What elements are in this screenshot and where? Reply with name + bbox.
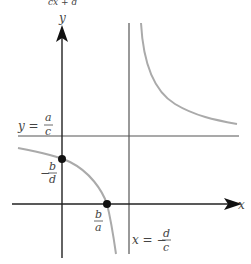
y-intercept-den: d [49, 173, 56, 186]
v-asymptote-num: d [163, 227, 170, 240]
upper-right-branch [141, 23, 237, 124]
title-fragment: cx + d [48, 0, 77, 7]
lower-left-branch [18, 148, 116, 254]
y-axis-label: y [58, 11, 66, 25]
h-asymptote-lhs: y = [17, 119, 39, 133]
x-axis-label: x [238, 198, 245, 212]
hyperbola-diagram: cx + d y x y = a c x = − d c − b d b a [0, 0, 251, 264]
x-intercept-den: a [95, 221, 102, 234]
x-intercept-num: b [95, 208, 102, 221]
h-asymptote-num: a [45, 111, 52, 124]
v-asymptote-lhs: x = − [132, 233, 167, 247]
y-intercept-num: b [49, 160, 56, 173]
y-intercept-point [58, 155, 66, 163]
h-asymptote-den: c [45, 125, 51, 138]
x-intercept-point [103, 200, 111, 208]
v-asymptote-den: c [163, 241, 169, 254]
